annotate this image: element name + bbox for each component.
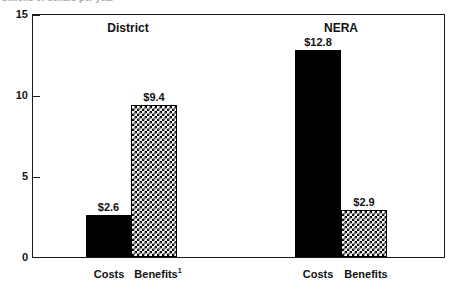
bar-nera-benefits [341, 210, 387, 257]
y-axis-label-5: 5 [2, 171, 28, 182]
x-label-nera-benefits: Benefits [336, 268, 396, 280]
y-label-wrap-15: 15 [0, 9, 28, 20]
bar-district-costs [86, 215, 131, 257]
bar-district-benefits [131, 105, 177, 257]
y-tick-15 [32, 15, 40, 16]
y-label-wrap-10: 10 [0, 90, 28, 101]
x-label-district-benefits-text: Benefits [134, 268, 177, 280]
bar-value-district-benefits: $9.4 [123, 91, 185, 103]
bar-chart: billions of dollars per year 15 10 5 0 D… [0, 0, 454, 291]
x-label-district-benefits: Benefits1 [126, 268, 190, 280]
x-label-district-costs-text: Costs [94, 268, 125, 280]
y-axis-label-0: 0 [2, 252, 28, 263]
y-tick-5 [32, 177, 40, 178]
group-title-nera: NERA [291, 22, 391, 35]
y-axis-label-15: 15 [2, 9, 28, 20]
bar-value-nera-costs: $12.8 [286, 36, 350, 48]
y-tick-10 [32, 96, 40, 97]
bar-nera-costs [295, 50, 341, 257]
x-label-district-benefits-footnote: 1 [178, 267, 182, 274]
bar-value-nera-benefits: $2.9 [333, 196, 395, 208]
y-axis-label-10: 10 [2, 90, 28, 101]
group-title-district: District [78, 22, 178, 35]
chart-top-caption: billions of dollars per year [2, 0, 114, 3]
bar-value-district-costs: $2.6 [78, 201, 139, 213]
y-label-wrap-0: 0 [0, 252, 28, 263]
x-label-nera-benefits-text: Benefits [344, 268, 387, 280]
x-label-nera-costs-text: Costs [303, 268, 334, 280]
y-label-wrap-5: 5 [0, 171, 28, 182]
